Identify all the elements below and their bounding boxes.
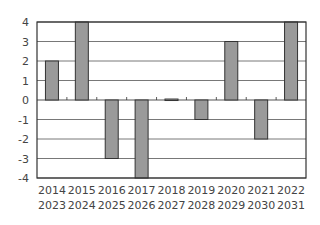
x-axis-ticks: 2014202320152024201620252017202620182027… [38,184,305,212]
y-tick-label: -1 [18,114,29,127]
bar [45,61,58,100]
bar [75,22,88,100]
x-tick-label: 2028 [187,199,215,212]
x-tick-label: 2017 [128,184,156,197]
bars [45,22,297,178]
x-tick-label: 2024 [68,199,96,212]
bar [105,100,118,159]
y-tick-label: 3 [22,36,29,49]
x-tick-label: 2031 [277,199,305,212]
y-axis-ticks: 43210-1-2-3-4 [18,16,29,185]
bar [225,42,238,101]
x-tick-label: 2015 [68,184,96,197]
y-tick-label: -3 [18,153,29,166]
bar [135,100,148,178]
x-tick-label: 2029 [217,199,245,212]
bar [165,99,178,101]
bar [285,22,298,100]
y-tick-label: 4 [22,16,29,29]
x-tick-label: 2026 [128,199,156,212]
y-tick-label: -2 [18,133,29,146]
x-tick-label: 2025 [98,199,126,212]
x-tick-label: 2021 [247,184,275,197]
x-tick-label: 2022 [277,184,305,197]
y-tick-label: 2 [22,55,29,68]
x-tick-label: 2023 [38,199,66,212]
y-tick-label: -4 [18,172,29,185]
y-tick-label: 0 [22,94,29,107]
bar [255,100,268,139]
x-tick-label: 2016 [98,184,126,197]
x-tick-label: 2027 [158,199,186,212]
x-tick-label: 2019 [187,184,215,197]
x-tick-label: 2020 [217,184,245,197]
x-tick-label: 2018 [158,184,186,197]
bar [195,100,208,120]
x-tick-label: 2030 [247,199,275,212]
x-tick-label: 2014 [38,184,66,197]
bar-chart: 43210-1-2-3-4 20142023201520242016202520… [0,0,320,225]
y-tick-label: 1 [22,75,29,88]
